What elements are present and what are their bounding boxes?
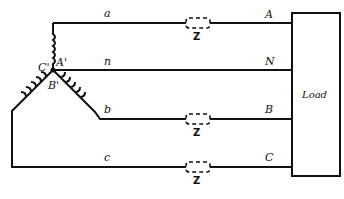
neutral-node — [51, 68, 56, 73]
terminal-B: B — [264, 103, 273, 116]
phase-a-coil — [53, 23, 55, 70]
node-A-prime: A' — [55, 56, 67, 69]
terminal-C: C — [265, 151, 274, 164]
node-B-prime: B' — [47, 79, 59, 92]
load-label: Load — [301, 89, 327, 100]
impedance-c-label: Z — [193, 175, 200, 186]
impedance-a-label: Z — [193, 31, 200, 42]
label-b: b — [104, 103, 111, 116]
impedance-c — [186, 162, 210, 172]
terminal-A: A — [264, 8, 273, 21]
impedance-b — [186, 114, 210, 124]
circuit-diagram: a n b c A N B C A' C' B' Z Z Z Load — [0, 0, 344, 199]
impedance-b-label: Z — [193, 127, 200, 138]
terminal-N: N — [264, 55, 275, 68]
impedance-a — [186, 18, 210, 28]
node-C-prime: C' — [38, 61, 49, 74]
phase-b-coil — [53, 70, 186, 119]
label-c: c — [104, 151, 110, 164]
label-n: n — [104, 55, 111, 68]
label-a: a — [104, 7, 111, 20]
